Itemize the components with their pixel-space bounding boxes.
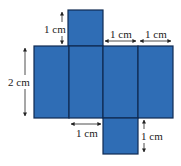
label-face3-width: 1 cm bbox=[110, 28, 132, 40]
face-2 bbox=[69, 46, 103, 118]
face-1 bbox=[34, 46, 69, 118]
face-3 bbox=[103, 46, 138, 118]
bottom-face bbox=[103, 118, 138, 154]
top-face bbox=[68, 10, 103, 46]
label-top-height: 1 cm bbox=[44, 23, 66, 35]
face-4 bbox=[138, 46, 173, 118]
label-face4-width: 1 cm bbox=[145, 28, 167, 40]
label-face2-width: 1 cm bbox=[76, 127, 98, 139]
cuboid-net-diagram: 1 cm 1 cm 1 cm 2 cm 1 cm 1 cm bbox=[0, 0, 181, 166]
label-bottom-height: 1 cm bbox=[141, 130, 163, 142]
label-height: 2 cm bbox=[8, 76, 30, 88]
